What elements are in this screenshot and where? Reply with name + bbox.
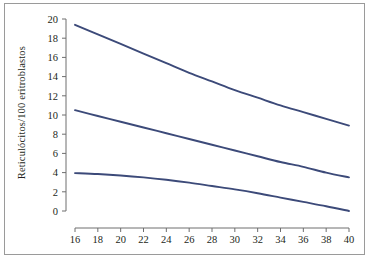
x-tick-label: 28 (207, 234, 218, 245)
y-tick-label: 0 (53, 206, 58, 217)
x-tick-label: 36 (298, 234, 309, 245)
y-tick-label: 4 (53, 167, 59, 178)
data-series-group (75, 25, 349, 211)
x-tick-label: 26 (184, 234, 195, 245)
plot-area: 02468101214161820 1618202224262830323436… (0, 0, 369, 258)
y-tick-label: 8 (53, 129, 58, 140)
series-line-median (75, 110, 349, 177)
x-tick-label: 16 (70, 234, 81, 245)
x-tick-label: 24 (161, 234, 172, 245)
x-tick-label: 20 (115, 234, 126, 245)
x-tick-label: 34 (275, 234, 286, 245)
x-tick-label: 38 (321, 234, 332, 245)
y-tick-label: 6 (53, 148, 58, 159)
series-line-upper (75, 25, 349, 126)
x-tick-label: 18 (93, 234, 104, 245)
chart-figure: Reticulócitos/100 eritroblastos 02468101… (0, 0, 369, 258)
y-tick-label: 2 (53, 187, 58, 198)
y-tick-label: 12 (48, 91, 59, 102)
y-tick-label: 20 (48, 14, 59, 25)
x-tick-label: 22 (138, 234, 149, 245)
y-tick-label: 10 (48, 110, 59, 121)
y-tick-label: 18 (48, 33, 59, 44)
x-tick-label: 40 (344, 234, 355, 245)
x-axis: 16182022242628303234363840 (70, 228, 355, 245)
x-tick-label: 32 (252, 234, 263, 245)
series-line-lower (75, 173, 349, 211)
y-tick-label: 14 (48, 71, 59, 82)
y-axis: 02468101214161820 (48, 14, 67, 217)
x-tick-label: 30 (230, 234, 241, 245)
y-tick-label: 16 (48, 52, 59, 63)
